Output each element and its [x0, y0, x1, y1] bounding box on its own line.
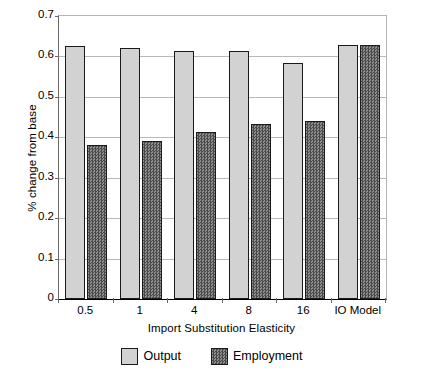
y-tick-label: 0.1 — [24, 252, 54, 264]
bar-group — [277, 16, 332, 299]
bar-employment-1 — [142, 141, 162, 299]
x-tick-label: 16 — [276, 304, 331, 317]
bar-output-0.5 — [65, 46, 85, 299]
legend-entry-employment: Employment — [211, 348, 302, 365]
bar-groups — [59, 16, 386, 299]
legend-entry-output: Output — [121, 348, 181, 365]
bar-chart: % change from base 00.10.20.30.40.50.60.… — [0, 0, 424, 383]
bar-group — [223, 16, 278, 299]
x-tick-label: IO Model — [331, 304, 386, 317]
x-tick-mark — [58, 298, 59, 303]
bar-employment-4 — [196, 132, 216, 299]
x-axis-tick-labels: 0.514816IO Model — [58, 304, 385, 317]
bar-employment-16 — [305, 121, 325, 299]
bar-employment-io-model — [360, 45, 380, 299]
y-tick-label: 0.5 — [24, 90, 54, 102]
x-axis-title: Import Substitution Elasticity — [58, 322, 385, 334]
legend-label: Output — [143, 350, 181, 363]
x-tick-mark — [113, 298, 114, 303]
bar-output-8 — [229, 51, 249, 299]
x-tick-label: 8 — [222, 304, 277, 317]
bar-group — [59, 16, 114, 299]
y-tick-label: 0.3 — [24, 171, 54, 183]
bar-output-16 — [283, 63, 303, 300]
legend-swatch-output-icon — [121, 348, 138, 365]
y-tick-label: 0 — [24, 292, 54, 304]
x-tick-mark — [167, 298, 168, 303]
x-tick-label: 0.5 — [58, 304, 113, 317]
legend-label: Employment — [233, 350, 302, 363]
y-tick-label: 0.2 — [24, 211, 54, 223]
bar-output-1 — [120, 48, 140, 299]
y-tick-label: 0.6 — [24, 50, 54, 62]
x-tick-mark — [276, 298, 277, 303]
bar-employment-8 — [251, 124, 271, 299]
x-tick-label: 4 — [167, 304, 222, 317]
bar-group — [114, 16, 169, 299]
x-tick-mark — [331, 298, 332, 303]
bar-output-io-model — [338, 45, 358, 299]
x-tick-mark — [385, 298, 386, 303]
x-tick-label: 1 — [113, 304, 168, 317]
bar-employment-0.5 — [87, 145, 107, 299]
legend-swatch-employment-icon — [211, 348, 228, 365]
chart-legend: OutputEmployment — [0, 348, 424, 365]
bar-group — [332, 16, 387, 299]
y-tick-label: 0.7 — [24, 9, 54, 21]
x-tick-mark — [222, 298, 223, 303]
y-tick-label: 0.4 — [24, 131, 54, 143]
plot-area — [58, 15, 387, 300]
bar-output-4 — [174, 51, 194, 299]
y-axis-tick-labels: 00.10.20.30.40.50.60.7 — [24, 0, 54, 383]
bar-group — [168, 16, 223, 299]
